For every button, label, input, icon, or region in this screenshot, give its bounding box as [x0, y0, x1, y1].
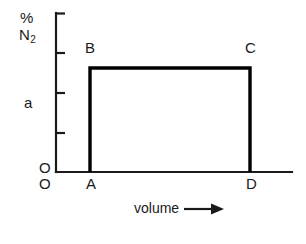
x-axis-title-label: volume	[134, 201, 179, 215]
point-label-a: A	[86, 176, 96, 191]
y-axis-species-subscript: 2	[30, 34, 36, 45]
y-axis-species-label: N2	[19, 27, 35, 42]
y-axis-zero-label: O	[39, 160, 51, 175]
point-label-b: B	[85, 40, 95, 55]
y-axis-species-text: N	[19, 26, 30, 43]
data-series-n2-profile	[90, 68, 250, 172]
x-axis-origin-label: O	[39, 176, 51, 191]
y-axis-unit-percent-label: %	[20, 10, 33, 25]
y-axis-secondary-label: a	[24, 95, 32, 110]
volume-arrow-head	[211, 204, 224, 215]
point-label-c: C	[245, 40, 256, 55]
figure-container: % N2 a O O B C A D volume	[0, 0, 306, 244]
point-label-d: D	[246, 176, 257, 191]
